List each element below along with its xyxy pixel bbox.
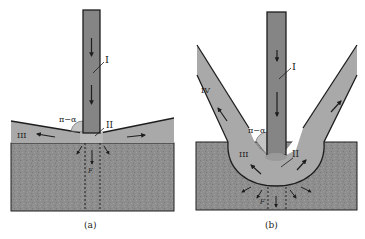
caption-a: (a) [84, 220, 96, 230]
stagnation-zone-b [265, 153, 287, 161]
label-jet-a: I [105, 54, 109, 65]
jet-a [83, 10, 100, 133]
caption-b: (b) [265, 220, 278, 230]
label-crater-flow-b: III [239, 150, 248, 159]
label-lateral-flow-a: III [17, 131, 26, 140]
jet-b [267, 12, 286, 155]
label-stagnation-b: II [292, 149, 300, 159]
label-reverse-flow-b: IV [201, 86, 210, 95]
label-stagnation-a: II [106, 120, 114, 130]
label-angle-b: π−α [248, 126, 266, 135]
label-angle-a: π−α [59, 115, 77, 124]
panel-a: I II III π−α F (a) [11, 10, 174, 230]
waterjet-impact-diagram: I II III π−α F (a) [0, 0, 365, 239]
label-jet-b: I [292, 61, 296, 72]
panel-b: I II III IV π−α F (b) [196, 12, 357, 230]
